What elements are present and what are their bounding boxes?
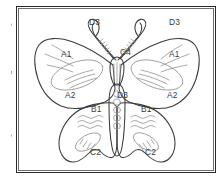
- margin-text-column: l e t i l n . e: [0, 0, 12, 180]
- label-hindwing-right: B1: [141, 104, 152, 114]
- margin-text-line: t: [0, 32, 12, 39]
- label-hindwing-left: B1: [91, 104, 102, 114]
- margin-text-line: e: [0, 20, 12, 27]
- label-antenna-left: D3: [89, 17, 100, 27]
- label-abdomen: D3: [117, 90, 128, 100]
- label-head: C4: [120, 47, 131, 57]
- label-spot-left: C2: [90, 147, 101, 157]
- margin-text-line: e: [0, 131, 12, 138]
- figure-frame: D3 D3 C4 A1 A1 A2 A2 D3 B1 B1 C2 C2: [16, 6, 216, 173]
- margin-text-line: i: [0, 44, 12, 51]
- label-spot-right: C2: [145, 147, 156, 157]
- hindwing-left-outline: [59, 103, 117, 162]
- label-forewing-left: A1: [61, 49, 72, 59]
- antenna-left-edge: [92, 23, 116, 60]
- label-antenna-right: D3: [169, 17, 180, 27]
- forewing-left-eyespot-lines: [65, 70, 97, 88]
- margin-text-line: l: [0, 8, 12, 15]
- label-forewing-right: A1: [169, 49, 180, 59]
- margin-text-line: l: [0, 56, 12, 63]
- thorax-stripes: [114, 63, 120, 83]
- forewing-right-eyespot-lines: [137, 70, 169, 88]
- margin-text-line: n: [0, 68, 12, 75]
- label-hindmargin-left: A2: [65, 90, 76, 100]
- label-hindmargin-right: A2: [167, 90, 178, 100]
- hindwing-right-wavy-lines: [131, 116, 155, 129]
- butterfly-illustration: D3 D3 C4 A1 A1 A2 A2 D3 B1 B1 C2 C2: [17, 7, 217, 174]
- page-canvas: l e t i l n . e: [0, 0, 221, 180]
- margin-text-line: .: [0, 80, 12, 87]
- hindwing-left-wavy-lines: [78, 116, 103, 129]
